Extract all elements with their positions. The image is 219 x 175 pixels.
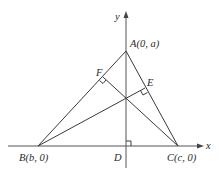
right-angle-mark-D xyxy=(126,141,131,146)
y-axis-label: y xyxy=(114,11,120,22)
x-axis-arrow-icon xyxy=(197,144,204,149)
altitude-BE xyxy=(38,88,145,146)
right-angle-mark-E xyxy=(141,91,148,96)
point-label-D: D xyxy=(113,152,122,163)
y-axis-arrow-icon xyxy=(124,11,129,18)
point-label-E: E xyxy=(146,77,154,88)
point-label-C: C(c, 0) xyxy=(167,152,197,164)
altitude-CF xyxy=(103,77,178,146)
side-AB xyxy=(38,51,126,146)
side-AC xyxy=(126,51,178,146)
point-label-A: A(0, a) xyxy=(129,38,160,50)
x-axis-label: x xyxy=(205,140,211,151)
point-label-F: F xyxy=(95,67,103,78)
point-label-B: B(b, 0) xyxy=(19,152,49,164)
right-angle-mark-F xyxy=(100,80,107,84)
triangle-altitudes-diagram: x y A(0, a) F E B(b, 0) D C(c, 0) xyxy=(0,0,219,175)
